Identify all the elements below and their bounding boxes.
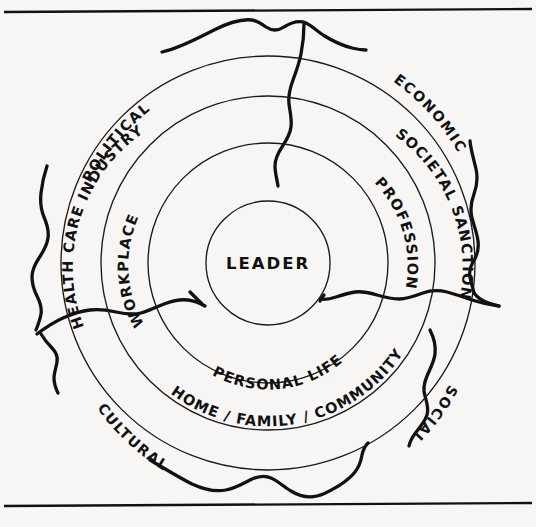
bottom-rule: [4, 503, 532, 506]
env-label-political: POLITICAL: [79, 99, 153, 185]
penetration-top-line: [275, 24, 304, 186]
penetration-left-line: [37, 300, 205, 334]
environment-penetrations: [37, 24, 499, 334]
center-label-leader: LEADER: [226, 254, 310, 273]
spheres-of-influence-diagram: LEADER WORKPLACE PROFESSION PERSONAL LIF…: [0, 0, 536, 527]
env-boundary-left-mid: [32, 166, 48, 330]
figure-root: LEADER WORKPLACE PROFESSION PERSONAL LIF…: [0, 0, 536, 527]
env-label-cultural: CULTURAL: [95, 400, 173, 474]
env-boundary-lower-left: [41, 334, 58, 393]
top-rule: [4, 9, 532, 12]
ring-label-personal-life: PERSONAL LIFE: [210, 351, 345, 393]
env-boundary-top: [162, 20, 366, 52]
env-label-social: SOCIAL: [407, 383, 461, 448]
ring-label-profession: PROFESSION: [372, 174, 421, 291]
